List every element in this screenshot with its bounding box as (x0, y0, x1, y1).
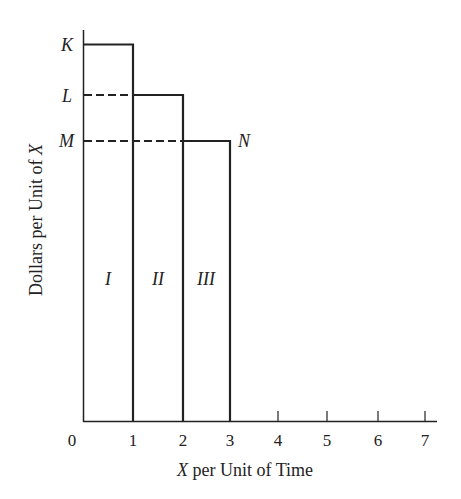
chart-canvas: K L M N I II III 0 1 2 3 4 5 6 7 X per U… (0, 0, 461, 499)
bar-region-2 (133, 95, 183, 422)
x-tick-label-6: 6 (374, 431, 383, 450)
region-label-2: II (151, 269, 165, 289)
x-tick-label-4: 4 (274, 431, 283, 450)
x-tick-label-0: 0 (68, 431, 77, 450)
label-L: L (61, 86, 72, 106)
x-tick-label-3: 3 (226, 431, 235, 450)
x-tick-label-5: 5 (323, 431, 332, 450)
bar-region-1 (83, 45, 133, 423)
x-tick-label-1: 1 (129, 431, 138, 450)
x-axis-label-rest: per Unit of Time (188, 460, 313, 480)
region-label-1: I (104, 269, 112, 289)
region-label-3: III (196, 269, 216, 289)
label-K: K (60, 35, 74, 55)
x-tick-label-2: 2 (179, 431, 188, 450)
x-axis-label: X per Unit of Time (176, 460, 313, 480)
label-M: M (58, 131, 75, 151)
x-tick-label-7: 7 (421, 431, 430, 450)
y-axis-label-var: X (26, 143, 46, 156)
label-N: N (237, 131, 251, 151)
y-axis-label-rest: Dollars per Unit of (26, 155, 46, 296)
y-axis-label: Dollars per Unit of X (26, 143, 46, 296)
